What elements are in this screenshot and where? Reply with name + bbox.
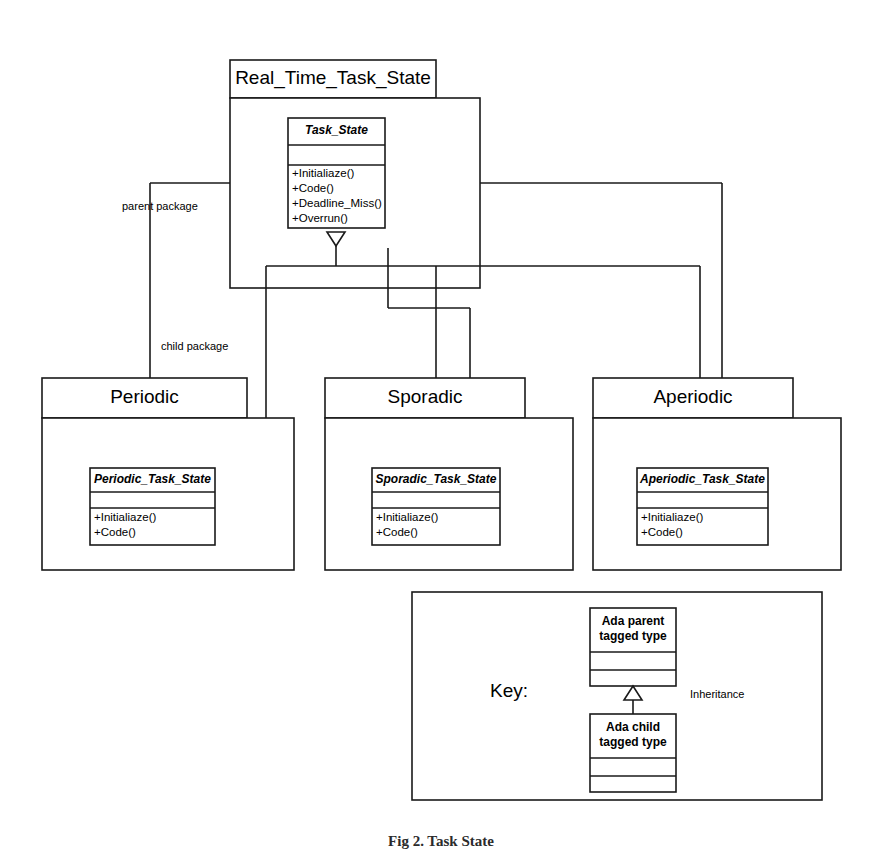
class-label-sporadic-task-state: Sporadic_Task_State <box>372 473 500 487</box>
class-operation-aperiodic-0: +Initialiaze() <box>641 511 703 524</box>
package-label-periodic: Periodic <box>42 386 247 408</box>
package-label-aperiodic: Aperiodic <box>593 386 793 408</box>
class-label-periodic-task-state: Periodic_Task_State <box>90 473 215 487</box>
figure-caption: Fig 2. Task State <box>0 833 882 849</box>
class-operation-periodic-0: +Initialiaze() <box>94 511 156 524</box>
class-operation-periodic-1: +Code() <box>94 526 136 539</box>
class-operation-sporadic-1: +Code() <box>376 526 418 539</box>
class-operation-task-state-1: +Code() <box>292 182 334 195</box>
key-inheritance-label: Inheritance <box>690 688 744 701</box>
key-parent-type-label: Ada parent tagged type <box>590 614 676 644</box>
package-label-sporadic: Sporadic <box>325 386 525 408</box>
class-operation-task-state-2: +Deadline_Miss() <box>292 197 382 210</box>
class-label-aperiodic-task-state: Aperiodic_Task_State <box>637 473 768 487</box>
class-operation-sporadic-0: +Initialiaze() <box>376 511 438 524</box>
class-operation-task-state-0: +Initialiaze() <box>292 167 354 180</box>
key-child-type-label: Ada child tagged type <box>590 720 676 750</box>
key-title-label: Key: <box>490 680 528 702</box>
edge-label-child-package: child package <box>161 340 228 353</box>
class-operation-aperiodic-1: +Code() <box>641 526 683 539</box>
uml-diagram-canvas: Real_Time_Task_State Task_State +Initial… <box>0 0 882 849</box>
class-label-task-state: Task_State <box>288 124 385 138</box>
package-label-real-time-task-state: Real_Time_Task_State <box>230 67 436 89</box>
diagram-vector-layer <box>0 0 882 849</box>
class-operation-task-state-3: +Overrun() <box>292 212 348 225</box>
edge-label-parent-package: parent package <box>122 200 198 213</box>
